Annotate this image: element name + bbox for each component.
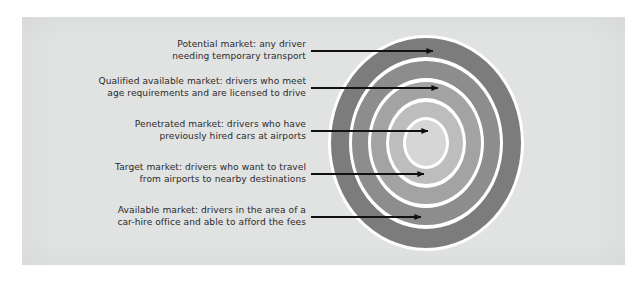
callout-label-line: needing temporary transport bbox=[0, 51, 306, 63]
callout-label-line: Target market: drivers who want to trave… bbox=[0, 162, 306, 174]
callout-label-line: Qualified available market: drivers who … bbox=[0, 76, 306, 88]
callout-label-line: age requirements and are licensed to dri… bbox=[0, 88, 306, 100]
callout-label-line: previously hired cars at airports bbox=[0, 131, 306, 143]
figure-root: Potential market: any driverneeding temp… bbox=[0, 0, 640, 284]
callout-label-line: Potential market: any driver bbox=[0, 39, 306, 51]
callout-label-line: Available market: drivers in the area of… bbox=[0, 205, 306, 217]
callout-label-target-market: Target market: drivers who want to trave… bbox=[0, 162, 306, 185]
rings-group bbox=[328, 35, 524, 251]
callout-label-penetrated-market: Penetrated market: drivers who haveprevi… bbox=[0, 119, 306, 142]
callout-label-line: Penetrated market: drivers who have bbox=[0, 119, 306, 131]
ring-band-5 bbox=[406, 120, 446, 166]
callout-label-potential-market: Potential market: any driverneeding temp… bbox=[0, 39, 306, 62]
callout-label-available-market: Available market: drivers in the area of… bbox=[0, 205, 306, 228]
callout-label-qualified-available-market: Qualified available market: drivers who … bbox=[0, 76, 306, 99]
callout-label-line: from airports to nearby destinations bbox=[0, 174, 306, 186]
callout-label-line: car-hire office and able to afford the f… bbox=[0, 217, 306, 229]
